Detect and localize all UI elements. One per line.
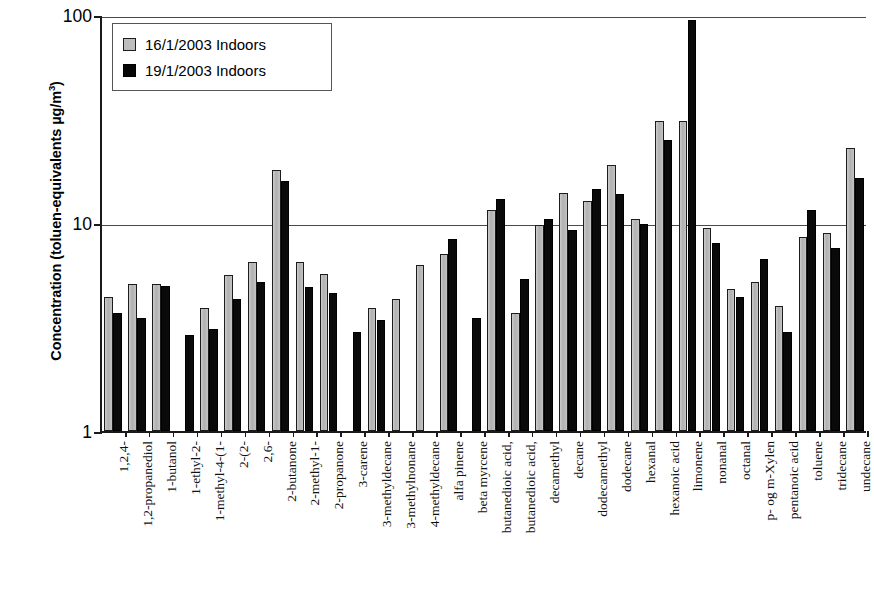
bar-series-0[interactable] (775, 306, 784, 431)
x-tick-mark (508, 431, 510, 437)
x-axis-label: alfa pinene (452, 441, 466, 501)
bar-series-0[interactable] (511, 313, 520, 431)
x-tick-mark (221, 431, 223, 437)
x-axis-label: octanal (739, 441, 753, 480)
bar-group (461, 17, 485, 431)
bar-series-0[interactable] (583, 201, 592, 431)
bar-series-1[interactable] (209, 329, 218, 431)
x-tick-mark (652, 431, 654, 437)
bar-series-0[interactable] (703, 228, 712, 431)
bar-series-0[interactable] (846, 148, 855, 431)
bar-chart: Concentration (toluen-equivalents µg/m3)… (0, 0, 874, 597)
bar-series-0[interactable] (368, 308, 377, 431)
bar-series-0[interactable] (200, 308, 209, 431)
bar-series-0[interactable] (799, 237, 808, 431)
bar-series-1[interactable] (736, 297, 745, 431)
x-axis-label: 2,6- (261, 441, 275, 462)
x-tick-mark (532, 431, 534, 437)
bar-series-1[interactable] (783, 332, 792, 431)
bar-series-0[interactable] (607, 165, 616, 431)
bar-series-0[interactable] (487, 210, 496, 431)
bar-series-0[interactable] (128, 284, 137, 431)
x-axis-labels: 1,2,4-1,2-propanediol1-butanol1-ethyl-2-… (100, 441, 866, 597)
bar-series-1[interactable] (544, 219, 553, 431)
bar-series-0[interactable] (320, 274, 329, 431)
x-tick-mark (556, 431, 558, 437)
x-axis-label: undecane (859, 441, 873, 492)
bar-group (413, 17, 437, 431)
bar-series-0[interactable] (535, 225, 544, 431)
bar-series-1[interactable] (760, 259, 769, 431)
x-tick-mark (197, 431, 199, 437)
x-axis-label: 3-methylnonane (404, 441, 418, 529)
bar-series-1[interactable] (113, 313, 122, 431)
y-tick-label-100: 100 (34, 8, 92, 26)
x-axis-label: dodecane (620, 441, 634, 492)
bar-series-1[interactable] (520, 279, 529, 431)
bar-series-0[interactable] (727, 289, 736, 431)
bar-series-1[interactable] (353, 332, 362, 431)
x-axis-label: pentanoic acid (787, 441, 801, 519)
bar-series-1[interactable] (233, 299, 242, 431)
bar-series-0[interactable] (559, 193, 568, 431)
bar-group (341, 17, 365, 431)
bar-series-1[interactable] (377, 320, 386, 431)
bar-series-0[interactable] (823, 233, 832, 431)
x-tick-mark (676, 431, 678, 437)
x-tick-mark (245, 431, 247, 437)
bar-series-1[interactable] (568, 230, 577, 431)
bar-series-0[interactable] (104, 297, 113, 431)
x-axis-label: 1,2,4- (117, 441, 131, 473)
bar-series-1[interactable] (688, 20, 697, 431)
bar-series-0[interactable] (392, 299, 401, 431)
bar-series-0[interactable] (224, 275, 233, 431)
x-axis-label: 1-methyl-4-(1- (213, 441, 227, 521)
bar-series-1[interactable] (496, 199, 505, 431)
bar-series-0[interactable] (296, 262, 305, 431)
bar-series-0[interactable] (440, 254, 449, 431)
bar-series-0[interactable] (655, 121, 664, 431)
legend-entry-0[interactable]: 16/1/2003 Indoors (123, 31, 317, 57)
bar-group (605, 17, 629, 431)
bar-series-1[interactable] (855, 178, 864, 431)
bar-series-1[interactable] (592, 189, 601, 431)
bar-series-0[interactable] (416, 265, 425, 431)
x-axis-label: toluene (811, 441, 825, 481)
bar-series-1[interactable] (281, 181, 290, 431)
bar-series-1[interactable] (831, 248, 840, 431)
bar-series-1[interactable] (616, 194, 625, 431)
bar-series-0[interactable] (248, 262, 257, 431)
bar-series-1[interactable] (305, 287, 314, 431)
bar-series-1[interactable] (257, 282, 266, 431)
bar-series-1[interactable] (664, 140, 673, 431)
bar-series-1[interactable] (329, 293, 338, 431)
legend-entry-1[interactable]: 19/1/2003 Indoors (123, 57, 317, 83)
bar-series-1[interactable] (807, 210, 816, 431)
bar-series-0[interactable] (679, 121, 688, 431)
y-axis-title-exponent: 3 (46, 86, 57, 91)
x-axis-label: decane (572, 441, 586, 478)
bar-series-0[interactable] (631, 219, 640, 431)
bar-series-1[interactable] (448, 239, 457, 431)
bar-series-1[interactable] (137, 318, 146, 431)
x-tick-mark (771, 431, 773, 437)
y-tick-label-1: 1 (34, 424, 92, 442)
bar-series-0[interactable] (272, 170, 281, 431)
x-axis-label: 1-ethyl-2- (189, 441, 203, 495)
bar-group (844, 17, 868, 431)
x-axis-label: decamethyl (548, 441, 562, 503)
bar-series-1[interactable] (185, 335, 194, 431)
x-axis-label: 2-(2- (237, 441, 251, 468)
x-axis-label: 1-butanol (165, 441, 179, 493)
bar-series-1[interactable] (640, 224, 649, 431)
bar-series-0[interactable] (152, 284, 161, 431)
bar-series-1[interactable] (712, 243, 721, 431)
bar-group (365, 17, 389, 431)
bar-series-1[interactable] (472, 318, 481, 431)
x-tick-mark (436, 431, 438, 437)
x-axis-label: limonene (691, 441, 705, 491)
x-tick-mark (747, 431, 749, 437)
bar-series-0[interactable] (751, 282, 760, 431)
bar-series-1[interactable] (161, 286, 170, 431)
legend-swatch-series-0 (123, 38, 136, 51)
